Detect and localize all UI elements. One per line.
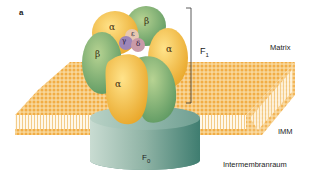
intermembrane-label: Intermembranraum [223, 160, 287, 169]
alpha-label-right: α [166, 44, 172, 54]
matrix-label: Matrix [270, 43, 290, 52]
panel-label: a [19, 8, 23, 17]
alpha-subunit-front [106, 54, 149, 124]
delta-label: δ [136, 40, 140, 48]
f0-label-subscript: 0 [147, 158, 150, 164]
alpha-label-top: α [109, 22, 115, 32]
gamma-label: γ [122, 37, 126, 45]
beta-label-top: β [144, 16, 149, 26]
atp-synthase-diagram: a α β ε γ δ α β α F1 Matrix IMM Intermem… [0, 0, 312, 183]
imm-label: IMM [278, 127, 293, 136]
f0-label: F0 [142, 153, 150, 164]
beta-label-left: β [95, 49, 100, 59]
f1-label-subscript: 1 [206, 52, 209, 58]
alpha-label-front: α [115, 79, 121, 89]
f1-label: F1 [200, 46, 209, 58]
epsilon-label: ε [131, 30, 135, 38]
